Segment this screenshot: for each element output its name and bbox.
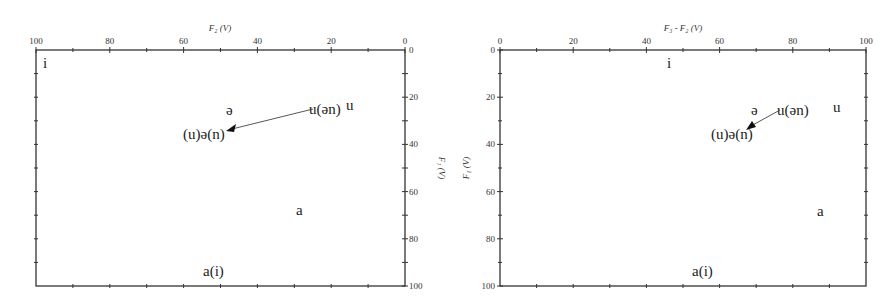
left-arrowhead-icon [226, 124, 236, 132]
right-chart-svg: 0 20 40 60 80 100 F₃ - F₂ (V) 0 20 40 60… [450, 0, 894, 308]
right-x-ticks [500, 47, 866, 288]
right-plot-frame [500, 50, 866, 286]
right-chart: 0 20 40 60 80 100 F₃ - F₂ (V) 0 20 40 60… [450, 0, 894, 308]
left-xtick-60: 60 [179, 36, 189, 46]
left-ytick-80: 80 [409, 234, 419, 244]
right-xtick-0: 0 [498, 36, 503, 46]
left-transition-arrow [232, 109, 313, 129]
right-ytick-0: 0 [491, 45, 496, 55]
label-a-i: a(i) [203, 263, 224, 280]
right-ytick-100: 100 [482, 281, 496, 291]
left-xtick-100: 100 [29, 36, 43, 46]
left-x-axis-title: F₂ (V) [208, 23, 231, 33]
left-plot-frame [36, 50, 405, 286]
label-i: i [667, 55, 671, 71]
right-xtick-20: 20 [569, 36, 579, 46]
left-y-axis-title: F₁ (V) [437, 156, 447, 179]
right-x-axis-title: F₃ - F₂ (V) [663, 23, 703, 33]
label-u-schwa-n: (u)ə(n) [711, 126, 753, 143]
right-ytick-20: 20 [486, 92, 496, 102]
label-a: a [817, 203, 824, 219]
left-xtick-20: 20 [327, 36, 337, 46]
right-xtick-40: 40 [642, 36, 652, 46]
label-a-i: a(i) [692, 263, 713, 280]
label-a: a [296, 202, 303, 218]
right-xtick-80: 80 [788, 36, 798, 46]
right-ytick-80: 80 [486, 234, 496, 244]
left-chart-svg: 100 80 60 40 20 0 F₂ (V) 0 20 40 60 80 1… [0, 0, 450, 308]
left-chart: 100 80 60 40 20 0 F₂ (V) 0 20 40 60 80 1… [0, 0, 450, 308]
left-xtick-40: 40 [253, 36, 263, 46]
left-ytick-60: 60 [409, 187, 419, 197]
left-x-ticks [36, 47, 405, 288]
right-ytick-60: 60 [486, 187, 496, 197]
label-u: u [346, 97, 354, 113]
left-ytick-100: 100 [409, 281, 423, 291]
right-ytick-40: 40 [486, 139, 496, 149]
right-y-ticks [497, 50, 868, 286]
left-ytick-20: 20 [409, 92, 419, 102]
label-u-schwa-n: (u)ə(n) [183, 126, 225, 143]
right-xtick-60: 60 [715, 36, 725, 46]
label-u: u [833, 99, 841, 115]
left-ytick-0: 0 [409, 45, 414, 55]
label-schwa: ə [751, 102, 758, 118]
right-xtick-100: 100 [859, 36, 873, 46]
label-i: i [43, 55, 47, 71]
right-y-axis-title: F₁ (V) [461, 157, 471, 180]
label-u-en: u(ən) [777, 102, 809, 119]
label-schwa: ə [226, 102, 233, 118]
left-xtick-0: 0 [403, 36, 408, 46]
left-ytick-40: 40 [409, 139, 419, 149]
left-xtick-80: 80 [105, 36, 115, 46]
label-u-en: u(ən) [309, 101, 341, 118]
